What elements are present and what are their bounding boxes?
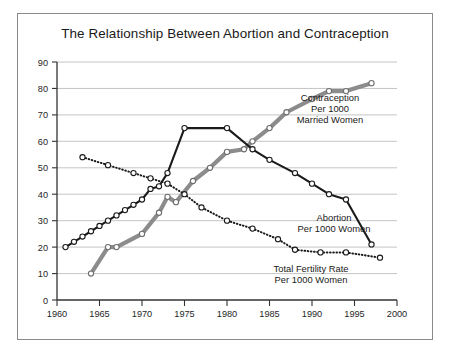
data-point-marker [122, 207, 127, 212]
data-point-marker [224, 149, 229, 154]
data-point-marker [114, 245, 119, 250]
x-tick-label: 1970 [132, 309, 152, 319]
data-point-marker [88, 271, 93, 276]
y-tick-label: 50 [38, 163, 48, 173]
data-point-marker [182, 126, 187, 131]
y-tick-label: 30 [38, 216, 48, 226]
data-point-marker [148, 176, 153, 181]
data-point-marker [343, 250, 348, 255]
data-point-marker [139, 197, 144, 202]
data-point-marker [80, 234, 85, 239]
x-tick-marks [57, 300, 397, 306]
fertility-label-line1: Total Fertility Rate [273, 263, 348, 274]
data-point-marker [165, 194, 170, 199]
chart-figure: The Relationship Between Abortion and Co… [0, 0, 450, 355]
data-point-marker [88, 229, 93, 234]
data-point-marker [63, 245, 68, 250]
abortion-label-line1: Abortion [317, 212, 352, 223]
label-fertility: Total Fertility Rate Per 1000 Women [273, 263, 348, 285]
y-tick-label: 0 [43, 296, 48, 306]
data-point-marker [267, 157, 272, 162]
y-tick-label: 70 [38, 110, 48, 120]
y-tick-label: 40 [38, 190, 48, 200]
data-point-marker [241, 147, 246, 152]
y-tick-label: 60 [38, 137, 48, 147]
data-point-marker [148, 186, 153, 191]
y-tick-label: 80 [38, 84, 48, 94]
data-point-marker [369, 81, 374, 86]
data-point-marker [105, 163, 110, 168]
y-tick-labels: 90 80 70 60 50 40 30 20 10 0 [38, 58, 48, 306]
data-point-marker [165, 170, 170, 175]
data-point-marker [97, 223, 102, 228]
data-point-marker [275, 237, 280, 242]
y-tick-marks [52, 62, 57, 300]
x-tick-label: 1985 [259, 309, 279, 319]
data-point-marker [250, 139, 255, 144]
data-point-marker [182, 192, 187, 197]
y-tick-label: 90 [38, 58, 48, 68]
y-tick-label: 10 [38, 269, 48, 279]
data-point-marker [207, 165, 212, 170]
data-point-marker [267, 126, 272, 131]
data-point-marker [114, 213, 119, 218]
x-tick-label: 1965 [89, 309, 109, 319]
data-point-marker [165, 181, 170, 186]
data-point-marker [318, 250, 323, 255]
x-tick-label: 1990 [302, 309, 322, 319]
y-tick-label: 20 [38, 243, 48, 253]
x-tick-label: 1980 [217, 309, 237, 319]
contraception-label-line2: Per 1000 [311, 103, 349, 114]
data-point-marker [369, 242, 374, 247]
data-point-marker [105, 245, 110, 250]
data-point-marker [377, 255, 382, 260]
data-point-marker [71, 239, 76, 244]
data-point-marker [80, 155, 85, 160]
abortion-label-line2: Per 1000 Women [298, 223, 371, 234]
data-point-marker [131, 202, 136, 207]
x-tick-label: 1960 [47, 309, 67, 319]
data-point-marker [224, 126, 229, 131]
data-point-marker [250, 147, 255, 152]
data-point-marker [292, 170, 297, 175]
x-tick-labels: 1960 1965 1970 1975 1980 1985 1990 1995 … [47, 309, 407, 319]
data-point-marker [309, 181, 314, 186]
data-point-marker [139, 231, 144, 236]
data-point-marker [190, 178, 195, 183]
contraception-label-line3: Married Women [297, 114, 364, 125]
data-point-marker [250, 226, 255, 231]
data-point-marker [156, 210, 161, 215]
chart-plot: 90 80 70 60 50 40 30 20 10 0 1960 1965 1… [0, 0, 450, 355]
fertility-label-line2: Per 1000 Women [275, 274, 348, 285]
x-tick-label: 2000 [387, 309, 407, 319]
data-point-marker [326, 192, 331, 197]
data-point-marker [292, 247, 297, 252]
data-point-marker [105, 218, 110, 223]
data-point-marker [173, 200, 178, 205]
x-tick-label: 1975 [174, 309, 194, 319]
data-point-marker [224, 218, 229, 223]
data-point-marker [156, 184, 161, 189]
data-point-marker [284, 110, 289, 115]
x-tick-label: 1995 [344, 309, 364, 319]
contraception-label-line1: Contraception [301, 92, 359, 103]
data-point-marker [343, 197, 348, 202]
data-point-marker [131, 170, 136, 175]
data-point-marker [199, 205, 204, 210]
